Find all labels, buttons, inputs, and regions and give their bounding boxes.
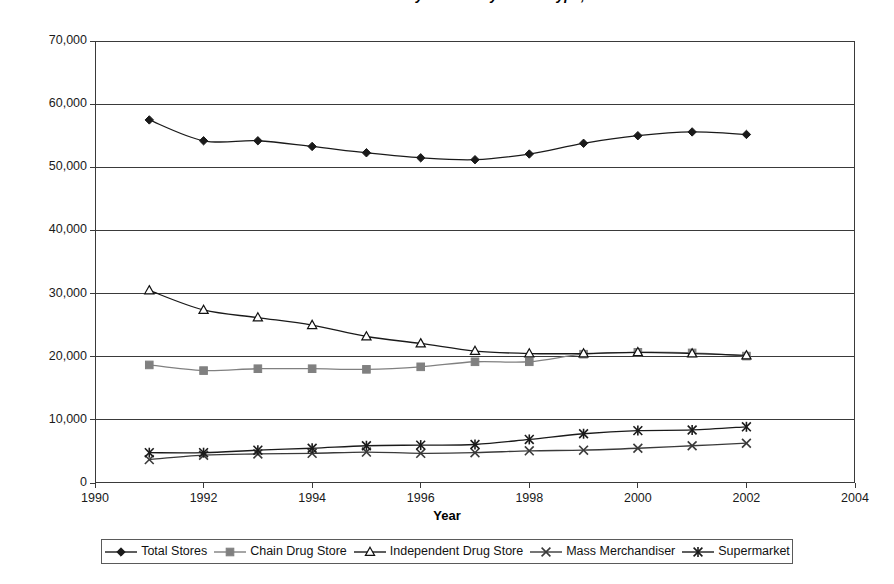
y-axis-tick-label: 50,000 [9,159,87,173]
y-axis-tick-label: 0 [9,475,87,489]
legend-item-label: Mass Merchandiser [566,545,675,558]
chart-container: Number of Retail Pharmacy Outlets by Out… [0,0,894,584]
x-axis-tick-label: 1992 [174,491,234,505]
legend-marker-triangle-icon [353,545,387,559]
x-axis-tick-label: 1996 [391,491,451,505]
gridlines [95,104,855,420]
legend-item-chain-drug-store[interactable]: Chain Drug Store [210,545,350,559]
legend-item-total-stores[interactable]: Total Stores [101,545,210,559]
x-tick-marks [95,483,855,488]
legend-marker-x-icon [529,545,563,559]
legend-item-label: Total Stores [141,545,207,558]
x-axis-title: Year [0,508,894,523]
series-supermarket [145,422,751,458]
y-axis-tick-label: 30,000 [9,286,87,300]
legend-marker-square-icon [213,545,247,559]
legend-marker-diamond-icon [104,545,138,559]
y-tick-marks [90,41,95,483]
x-axis-tick-label: 1990 [65,491,125,505]
x-axis-tick-label: 2002 [716,491,776,505]
legend-marker-asterisk-icon [681,545,715,559]
y-axis-tick-label: 70,000 [9,33,87,47]
x-axis-tick-label: 1994 [282,491,342,505]
series-independent-drug-store [145,286,751,359]
x-axis-tick-label: 2000 [608,491,668,505]
legend-item-mass-merchandiser[interactable]: Mass Merchandiser [526,545,678,559]
y-axis-tick-label: 10,000 [9,412,87,426]
chart-legend: Total StoresChain Drug StoreIndependent … [101,539,793,564]
legend-item-independent-drug-store[interactable]: Independent Drug Store [350,545,526,559]
legend-item-label: Supermarket [718,545,790,558]
series-total-stores [145,116,751,164]
series-layer [145,116,751,464]
legend-item-supermarket[interactable]: Supermarket [678,545,793,559]
x-axis-tick-label: 1998 [499,491,559,505]
y-axis-tick-label: 40,000 [9,222,87,236]
legend-item-label: Chain Drug Store [250,545,347,558]
y-axis-tick-label: 60,000 [9,96,87,110]
x-axis-tick-label: 2004 [825,491,885,505]
y-axis-tick-label: 20,000 [9,349,87,363]
legend-item-label: Independent Drug Store [390,545,523,558]
